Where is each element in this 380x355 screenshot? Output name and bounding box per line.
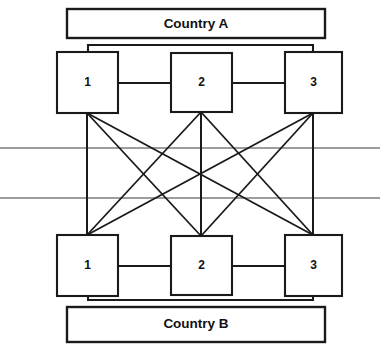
node-b1[interactable]: 1 bbox=[57, 235, 118, 296]
border-rules-group bbox=[0, 148, 380, 198]
node-a1[interactable]: 1 bbox=[57, 52, 118, 113]
network-diagram: Country A 1 2 3 1 2 bbox=[0, 0, 380, 355]
bracket-a-path bbox=[88, 45, 313, 52]
node-b2[interactable]: 2 bbox=[171, 236, 232, 295]
country-a-label: Country A bbox=[164, 16, 229, 31]
node-a3[interactable]: 3 bbox=[285, 52, 342, 113]
node-a2-label: 2 bbox=[198, 75, 205, 89]
top-node-group: 1 2 3 bbox=[57, 52, 342, 113]
node-a1-label: 1 bbox=[84, 75, 91, 89]
node-b2-label: 2 bbox=[198, 258, 205, 272]
diagram-canvas: Country A 1 2 3 1 2 bbox=[0, 0, 380, 355]
country-b-box: Country B bbox=[67, 307, 325, 342]
node-a2[interactable]: 2 bbox=[171, 53, 232, 112]
country-a-bracket bbox=[88, 45, 313, 52]
node-b3-label: 3 bbox=[310, 258, 317, 272]
country-b-bracket bbox=[88, 296, 313, 300]
country-a-box: Country A bbox=[67, 9, 325, 38]
bracket-b-path bbox=[88, 296, 313, 300]
node-b1-label: 1 bbox=[84, 258, 91, 272]
cross-group-links bbox=[87, 112, 313, 236]
bottom-node-group: 1 2 3 bbox=[57, 235, 342, 296]
node-b3[interactable]: 3 bbox=[285, 235, 342, 296]
node-a3-label: 3 bbox=[310, 75, 317, 89]
country-b-label: Country B bbox=[163, 316, 228, 331]
